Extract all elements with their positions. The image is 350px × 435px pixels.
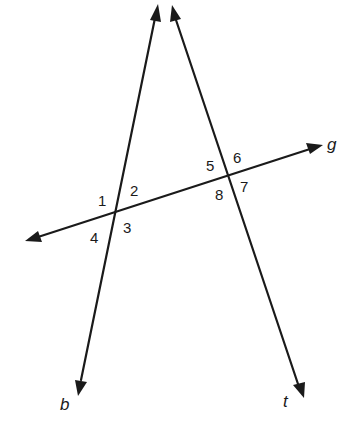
line-label-g: g <box>327 135 337 154</box>
arrow-down-icon <box>75 380 87 396</box>
angle-label-8: 8 <box>215 186 223 203</box>
arrow-right-icon <box>306 143 323 154</box>
arrow-left-icon <box>25 231 42 242</box>
arrow-down-icon <box>293 382 305 398</box>
arrow-up-icon <box>170 5 181 22</box>
angle-label-3: 3 <box>123 219 131 236</box>
angle-label-5: 5 <box>206 157 214 174</box>
angle-label-7: 7 <box>240 178 248 195</box>
line-t <box>170 5 305 398</box>
arrow-up-icon <box>150 4 161 22</box>
line-b <box>75 4 161 396</box>
line-label-b: b <box>60 395 69 414</box>
line-g <box>25 143 323 242</box>
angle-label-6: 6 <box>233 149 241 166</box>
transversal-diagram: 1 2 3 4 5 6 7 8 g b t <box>0 0 350 435</box>
line-label-t: t <box>283 392 289 411</box>
angle-label-1: 1 <box>98 192 106 209</box>
angle-label-2: 2 <box>130 182 138 199</box>
angle-label-4: 4 <box>90 229 98 246</box>
